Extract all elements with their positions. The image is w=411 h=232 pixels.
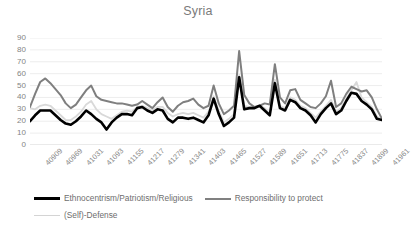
legend-row-1: Ethnocentrism/Patriotism/Religious Respo… <box>0 190 396 207</box>
chart-title: Syria <box>0 4 396 18</box>
plot-area <box>30 38 382 145</box>
legend-swatch-icon <box>34 197 60 200</box>
legend-item-ethnocentrism[interactable]: Ethnocentrism/Patriotism/Religious <box>34 194 193 203</box>
x-axis-tick-41465: 41465 <box>228 147 248 167</box>
x-axis-tick-41713: 41713 <box>309 147 329 167</box>
legend-label: Responsibility to protect <box>235 194 323 203</box>
y-axis-tick-80: 80 <box>0 46 26 54</box>
y-axis-tick-60: 60 <box>0 70 26 78</box>
x-axis-tick-41651: 41651 <box>289 147 309 167</box>
y-axis-tick-20: 20 <box>0 117 26 125</box>
legend-swatch-icon <box>205 198 231 200</box>
legend-item-responsibility[interactable]: Responsibility to protect <box>205 194 323 203</box>
x-axis-tick-41155: 41155 <box>125 147 145 167</box>
y-axis-tick-40: 40 <box>0 93 26 101</box>
x-axis-tick-41527: 41527 <box>248 147 268 167</box>
x-axis: 4090940969410314109341155412174127941341… <box>0 147 396 187</box>
x-axis-tick-41899: 41899 <box>371 147 391 167</box>
legend-row-2: (Self)-Defense <box>0 207 396 224</box>
series-lines <box>30 38 382 145</box>
x-axis-tick-40969: 40969 <box>64 147 84 167</box>
x-axis-tick-41031: 41031 <box>85 147 105 167</box>
x-axis-tick-41403: 41403 <box>207 147 227 167</box>
x-axis-tick-41961: 41961 <box>391 147 411 167</box>
x-axis-tick-41341: 41341 <box>187 147 207 167</box>
y-axis-tick-70: 70 <box>0 58 26 66</box>
y-axis: 9080706050403020100 <box>0 32 26 151</box>
x-axis-tick-41775: 41775 <box>330 147 350 167</box>
x-axis-tick-41279: 41279 <box>166 147 186 167</box>
legend-swatch-icon <box>34 215 60 216</box>
y-axis-tick-10: 10 <box>0 129 26 137</box>
y-axis-tick-50: 50 <box>0 82 26 90</box>
legend-item-self-defense[interactable]: (Self)-Defense <box>34 211 118 220</box>
legend-label: (Self)-Defense <box>64 211 118 220</box>
x-axis-tick-40909: 40909 <box>44 147 64 167</box>
x-axis-tick-41837: 41837 <box>350 147 370 167</box>
chart-legend: Ethnocentrism/Patriotism/Religious Respo… <box>0 190 396 224</box>
y-axis-tick-90: 90 <box>0 34 26 42</box>
x-axis-tick-41217: 41217 <box>146 147 166 167</box>
y-axis-tick-30: 30 <box>0 105 26 113</box>
x-axis-tick-41589: 41589 <box>268 147 288 167</box>
x-axis-tick-41093: 41093 <box>105 147 125 167</box>
legend-label: Ethnocentrism/Patriotism/Religious <box>64 194 193 203</box>
